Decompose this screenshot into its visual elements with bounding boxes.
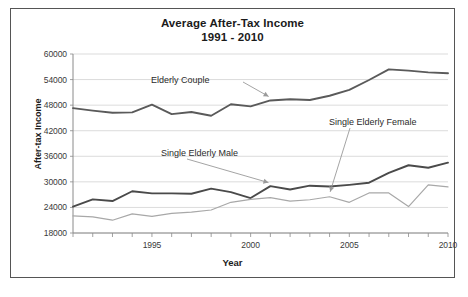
series-line-single-elderly-female bbox=[73, 185, 448, 220]
axis-lines bbox=[73, 54, 448, 233]
annotation-leader-line bbox=[187, 159, 268, 183]
annotation-arrows bbox=[187, 82, 350, 192]
annotation-leader-line bbox=[330, 128, 350, 192]
chart-figure: Average After-Tax Income 1991 - 2010 Aft… bbox=[10, 8, 455, 278]
gridlines bbox=[73, 54, 448, 233]
axis-ticks bbox=[70, 54, 448, 237]
series-line-single-elderly-male bbox=[73, 163, 448, 207]
plot-area bbox=[11, 9, 456, 279]
annotation-single-elderly-female: Single Elderly Female bbox=[329, 117, 417, 127]
series-line-elderly-couple bbox=[73, 69, 448, 115]
annotation-arrowhead bbox=[263, 179, 269, 184]
annotation-elderly-couple: Elderly Couple bbox=[151, 75, 210, 85]
annotation-single-elderly-male: Single Elderly Male bbox=[161, 148, 238, 158]
